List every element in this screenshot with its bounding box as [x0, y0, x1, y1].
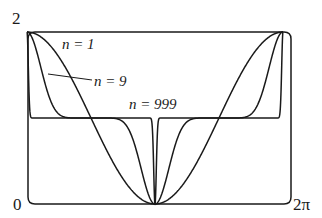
curve-n999 — [27, 32, 283, 204]
x-tick-2pi: 2π — [293, 196, 310, 213]
series-label-n1-text: n = 1 — [62, 36, 95, 52]
series-label-n999: n = 999 — [129, 97, 177, 112]
y-tick-2: 2 — [12, 10, 21, 27]
y-tick-0: 0 — [13, 196, 22, 213]
series-label-n9-text: n = 9 — [94, 73, 127, 89]
series-label-n9: n = 9 — [94, 74, 127, 89]
series-label-n1: n = 1 — [62, 37, 95, 52]
series-label-n999-text: n = 999 — [129, 96, 177, 112]
curves — [27, 32, 283, 204]
